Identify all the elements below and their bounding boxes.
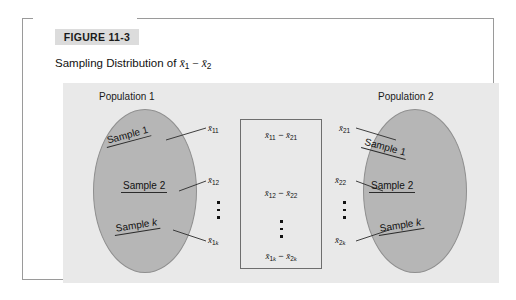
figure-number-label: FIGURE 11-3 [64,31,130,43]
population-1-sample-2: Sample 2 [121,180,167,193]
population-2-sample-2: Sample 2 [369,180,415,193]
population-2-ellipsis-dots [343,201,346,219]
difference-row-k: x̄1k − x̄2k [241,251,321,262]
population-2-sample-2-label: Sample 2 [369,180,415,193]
population-1-sample-2-label: Sample 2 [121,180,167,193]
diagram-panel: Population 1 Population 2 Sample 1 Sampl… [63,83,499,283]
sample-mean-x1k: x̄1k [208,235,218,246]
figure-title: Sampling Distribution of x̄1 − x̄2 [55,57,211,71]
figure-frame: FIGURE 11-3 Sampling Distribution of x̄1… [22,18,494,280]
figure-title-text: Sampling Distribution of [55,57,180,69]
badge-border-gap [33,16,137,22]
difference-box: x̄11 − x̄21 x̄12 − x̄22 x̄1k − x̄2k [240,119,322,269]
sample-mean-x11: x̄11 [208,123,219,134]
population-1-label: Population 1 [99,91,155,102]
difference-row-2: x̄12 − x̄22 [241,188,321,199]
sample-mean-x21: x̄21 [339,123,350,134]
population-1-ellipsis-dots [217,201,220,219]
population-2-label: Population 2 [378,91,434,102]
figure-number-badge: FIGURE 11-3 [55,29,139,45]
difference-ellipsis-dots [280,220,283,238]
figure-title-math: x̄1 − x̄2 [180,57,212,69]
sample-mean-x22: x̄22 [335,175,346,186]
sample-mean-x12: x̄12 [208,175,219,186]
difference-row-1: x̄11 − x̄21 [241,130,321,141]
sample-mean-x2k: x̄2k [335,235,345,246]
